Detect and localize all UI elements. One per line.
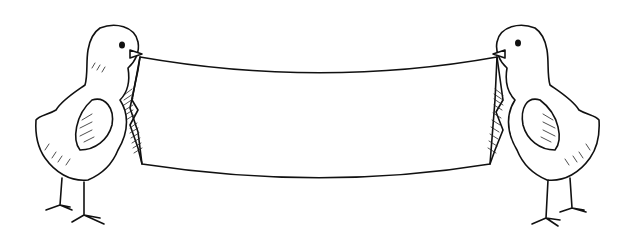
left-chick-eye: [119, 42, 125, 49]
banner: [124, 57, 503, 178]
chicks-banner-illustration: [0, 0, 635, 244]
left-chick: [36, 25, 142, 224]
right-chick-eye: [515, 40, 521, 47]
right-chick: [493, 25, 599, 226]
